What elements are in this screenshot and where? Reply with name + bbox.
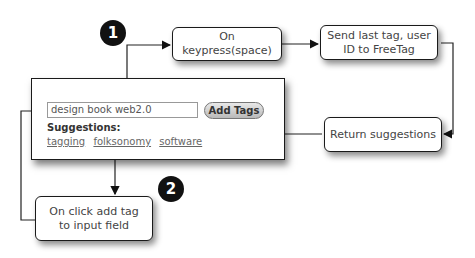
tag-input[interactable]: design book web2.0: [47, 102, 198, 118]
node-send-to-freetag: Send last tag, user ID to FreeTag: [320, 25, 438, 60]
node-onclick-add-tag: On click add tag to input field: [35, 196, 153, 241]
arrow-send-to-return: [441, 43, 453, 134]
node-keypress: On keypress(space): [172, 27, 282, 61]
step-badge-1: 1: [100, 20, 126, 46]
suggestions-list: tagging folksonomy software: [47, 136, 207, 147]
step-badge-2: 2: [158, 176, 184, 202]
node-onclick-label: On click add tag to input field: [46, 205, 142, 233]
node-send-label: Send last tag, user ID to FreeTag: [327, 29, 431, 57]
node-keypress-label: On keypress(space): [173, 30, 281, 58]
suggestion-link[interactable]: software: [159, 136, 202, 147]
node-return-suggestions: Return suggestions: [324, 117, 442, 152]
suggestion-link[interactable]: tagging: [47, 136, 85, 147]
add-tags-button[interactable]: Add Tags: [204, 102, 264, 119]
suggestions-label: Suggestions:: [47, 122, 121, 133]
suggestion-link[interactable]: folksonomy: [93, 136, 151, 147]
node-return-label: Return suggestions: [330, 128, 436, 142]
tag-widget-panel: design book web2.0 Add Tags Suggestions:…: [31, 78, 285, 160]
